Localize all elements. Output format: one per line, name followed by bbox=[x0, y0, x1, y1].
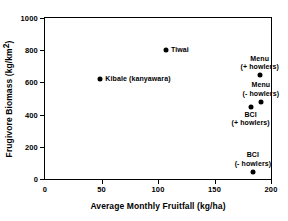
y-axis-tick-label: 800 bbox=[25, 46, 38, 55]
plot-area: 02004006008001000050100150200TiwaiKibale… bbox=[44, 17, 272, 180]
y-axis-tick bbox=[40, 147, 45, 148]
data-point-label: Menu (- howlers) bbox=[243, 81, 280, 98]
y-axis-tick bbox=[40, 179, 45, 180]
y-axis-tick-label: 1000 bbox=[21, 14, 39, 23]
x-axis-tick bbox=[102, 179, 103, 184]
y-axis-tick bbox=[40, 18, 45, 19]
y-axis-tick bbox=[40, 50, 45, 51]
x-axis-tick-label: 0 bbox=[43, 185, 47, 194]
data-point bbox=[250, 169, 255, 174]
data-point bbox=[98, 77, 103, 82]
scatter-chart-figure: Frugivore Biomass (kg/km2) 0200400600800… bbox=[0, 0, 288, 221]
data-point bbox=[248, 104, 253, 109]
data-point bbox=[258, 99, 263, 104]
y-axis-title-superscript: 2 bbox=[0, 43, 10, 48]
y-axis-tick-label: 400 bbox=[25, 110, 38, 119]
y-axis-tick-label: 0 bbox=[34, 175, 38, 184]
x-axis-tick-label: 200 bbox=[264, 185, 277, 194]
data-point-label: BCI (- howlers) bbox=[235, 151, 272, 168]
x-axis-title: Average Monthly Fruitfall (kg/ha) bbox=[44, 201, 272, 211]
y-axis-tick-label: 600 bbox=[25, 78, 38, 87]
x-axis-tick-label: 150 bbox=[208, 185, 221, 194]
x-axis-tick-label: 50 bbox=[97, 185, 106, 194]
data-point-label: Tiwai bbox=[171, 46, 189, 55]
data-point-label: BCI (+ howlers) bbox=[232, 111, 270, 128]
x-axis-tick bbox=[271, 179, 272, 184]
x-axis-tick bbox=[158, 179, 159, 184]
y-axis-title-base: Frugivore Biomass (kg/km bbox=[4, 48, 14, 157]
data-point-label: Menu (+ howlers) bbox=[241, 55, 279, 72]
y-axis-title-tail: ) bbox=[4, 40, 14, 43]
y-axis-title: Frugivore Biomass (kg/km2) bbox=[1, 17, 13, 180]
data-point-label: Kibale (kanyawara) bbox=[105, 75, 170, 84]
y-axis-tick bbox=[40, 82, 45, 83]
y-axis-tick bbox=[40, 115, 45, 116]
x-axis-tick bbox=[215, 179, 216, 184]
data-point bbox=[257, 73, 262, 78]
data-point bbox=[163, 48, 168, 53]
y-axis-tick-label: 200 bbox=[25, 142, 38, 151]
x-axis-tick-label: 100 bbox=[151, 185, 164, 194]
